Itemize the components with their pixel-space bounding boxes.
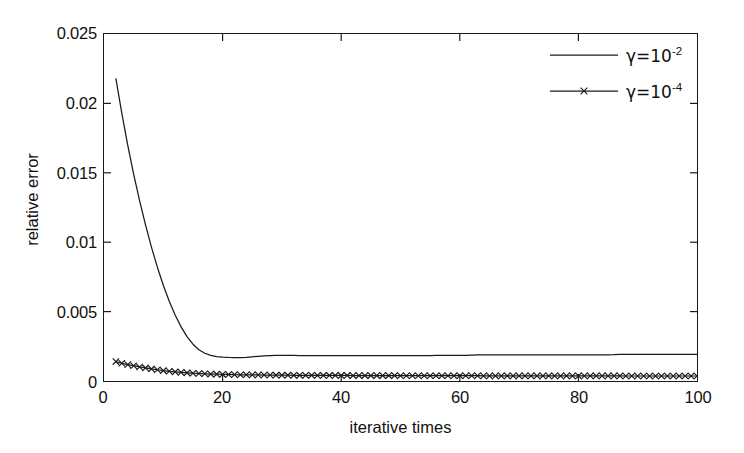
data-series-group	[113, 78, 697, 379]
legend-item[interactable]: γ=10-4	[548, 78, 694, 114]
y-tick-label: 0.005	[11, 304, 97, 321]
x-tick-label: 60	[451, 389, 469, 406]
y-tick-label: 0	[11, 374, 97, 391]
legend-item[interactable]: γ=10-2	[548, 42, 694, 78]
x-tick-label: 0	[99, 389, 108, 406]
y-tick-label: 0.025	[11, 25, 97, 42]
legend-line-sample	[548, 78, 620, 114]
y-axis-tick-labels: 00.0050.010.0150.020.025	[5, 0, 97, 453]
y-axis-title: relative error	[23, 120, 42, 280]
x-axis-title: iterative times	[103, 418, 698, 437]
x-tick-label: 40	[332, 389, 350, 406]
figure-canvas: 00.0050.010.0150.020.025 iterative times…	[0, 0, 744, 453]
series-line-0	[116, 78, 697, 357]
y-tick-label: 0.02	[11, 95, 97, 112]
legend-label: γ=10-4	[626, 82, 682, 103]
legend: γ=10-2γ=10-4	[548, 42, 694, 114]
legend-line-sample	[548, 42, 620, 78]
x-tick-label: 20	[213, 389, 231, 406]
x-tick-label: 100	[685, 389, 712, 406]
legend-label: γ=10-2	[626, 46, 682, 67]
x-tick-label: 80	[570, 389, 588, 406]
